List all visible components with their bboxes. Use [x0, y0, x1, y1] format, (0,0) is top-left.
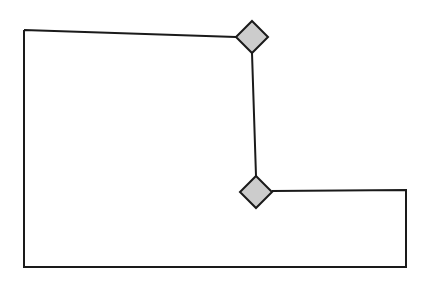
polygon-diagram-svg: [0, 0, 430, 286]
polygon-outline: [24, 30, 406, 267]
diamond-node-bottom[interactable]: [240, 176, 272, 208]
diamond-node-top[interactable]: [236, 21, 268, 53]
diagram-canvas: [0, 0, 430, 286]
